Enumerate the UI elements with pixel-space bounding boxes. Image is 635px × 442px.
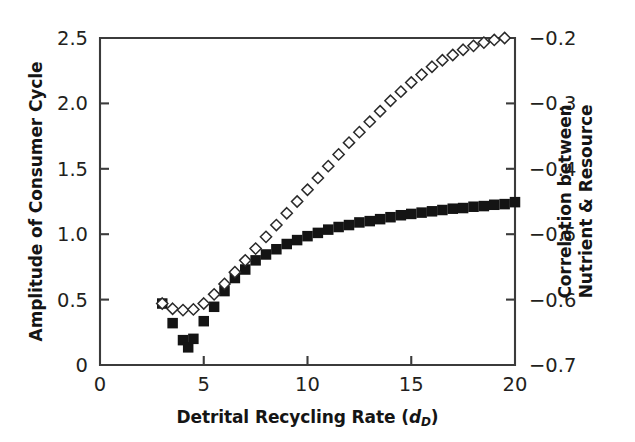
- data-point-diamond: [333, 149, 344, 160]
- data-point-diamond: [302, 184, 313, 195]
- data-point-square: [489, 200, 500, 211]
- x-tick-label: 15: [399, 373, 424, 396]
- data-point-diamond: [447, 49, 458, 60]
- data-point-square: [396, 210, 407, 221]
- data-point-diamond: [375, 106, 386, 117]
- data-point-square: [261, 249, 272, 260]
- x-tick-label: 0: [94, 373, 106, 396]
- y-tick-label-left: 2.0: [57, 92, 88, 115]
- data-point-square: [271, 244, 282, 255]
- data-point-diamond: [395, 86, 406, 97]
- data-point-square: [406, 209, 417, 220]
- data-point-diamond: [385, 95, 396, 106]
- y-tick-label-left: 1.5: [57, 158, 88, 181]
- data-point-square: [448, 203, 459, 214]
- data-point-diamond: [281, 208, 292, 219]
- chart-figure: 0510152000.51.01.52.02.5−0.7−0.6−0.5−0.4…: [0, 0, 635, 442]
- plot-frame: [100, 38, 515, 365]
- y-tick-label-left: 0.5: [57, 289, 88, 312]
- y-tick-label-right: −0.2: [529, 27, 576, 50]
- data-point-diamond: [499, 32, 510, 43]
- data-point-diamond: [167, 303, 178, 314]
- data-point-diamond: [364, 116, 375, 127]
- data-point-square: [188, 334, 199, 345]
- data-point-square: [292, 235, 303, 246]
- data-point-square: [416, 207, 427, 218]
- data-point-diamond: [198, 298, 209, 309]
- y-axis-title-right: Correlation betweenNutrient & Resource: [555, 104, 596, 298]
- y-tick-label-left: 0: [76, 354, 88, 377]
- x-tick-label: 5: [198, 373, 210, 396]
- data-point-diamond: [416, 69, 427, 80]
- data-point-square: [313, 228, 324, 239]
- data-point-square: [510, 197, 521, 208]
- data-point-square: [333, 222, 344, 233]
- data-point-square: [354, 217, 365, 228]
- data-point-square: [427, 206, 438, 217]
- data-point-diamond: [250, 243, 261, 254]
- y-tick-label-right: −0.7: [529, 354, 576, 377]
- x-tick-label: 10: [295, 373, 320, 396]
- data-point-square: [344, 220, 355, 231]
- data-point-diamond: [177, 304, 188, 315]
- data-point-square: [365, 216, 376, 227]
- y-axis-title-right-line: Nutrient & Resource: [576, 105, 596, 299]
- data-point-square: [199, 316, 210, 327]
- data-point-diamond: [437, 55, 448, 66]
- data-point-diamond: [406, 77, 417, 88]
- data-point-square: [437, 205, 448, 216]
- x-axis-title: Detrital Recycling Rate (dD): [176, 407, 438, 429]
- data-point-diamond: [343, 137, 354, 148]
- data-point-square: [458, 203, 469, 214]
- data-point-square: [468, 201, 479, 212]
- data-point-diamond: [188, 304, 199, 315]
- data-point-square: [209, 302, 220, 313]
- data-point-square: [167, 318, 178, 329]
- data-point-diamond: [323, 161, 334, 172]
- data-point-diamond: [354, 127, 365, 138]
- scatter-plot: 0510152000.51.01.52.02.5−0.7−0.6−0.5−0.4…: [0, 0, 635, 442]
- data-point-diamond: [489, 34, 500, 45]
- data-point-square: [375, 214, 386, 225]
- data-point-square: [282, 239, 293, 250]
- data-point-diamond: [209, 289, 220, 300]
- data-point-diamond: [426, 61, 437, 72]
- data-point-square: [385, 212, 396, 223]
- data-point-diamond: [292, 196, 303, 207]
- x-tick-label: 20: [503, 373, 528, 396]
- y-tick-label-left: 2.5: [57, 27, 88, 50]
- data-point-diamond: [260, 231, 271, 242]
- data-point-square: [302, 231, 313, 242]
- data-point-square: [323, 224, 334, 235]
- data-point-diamond: [271, 219, 282, 230]
- series-1: [157, 197, 520, 353]
- y-axis-title-left: Amplitude of Consumer Cycle: [26, 62, 46, 342]
- y-axis-title-right-line: Correlation between: [555, 104, 575, 298]
- data-point-square: [250, 255, 261, 265]
- data-point-diamond: [312, 172, 323, 183]
- data-point-square: [499, 199, 510, 210]
- series-2: [157, 32, 511, 315]
- y-tick-label-left: 1.0: [57, 223, 88, 246]
- data-point-square: [479, 201, 490, 212]
